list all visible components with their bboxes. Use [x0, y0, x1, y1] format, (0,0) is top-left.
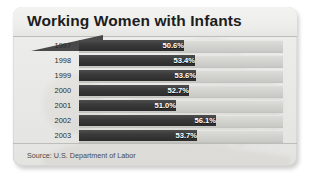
source-note: Source: U.S. Department of Labor: [27, 151, 136, 160]
bar-value-label: 56.1%: [79, 115, 220, 126]
footer-divider: [13, 143, 297, 144]
bar-chart: 1997 50.6% 1998 53.4% 1999 53.6% 2000: [13, 37, 297, 141]
category-label: 1998: [37, 54, 71, 67]
chart-row: 2000 52.7%: [13, 84, 297, 97]
infographic-card: Working Women with Infants 1997 50.6% 19…: [13, 7, 297, 166]
bar-value-label: 50.6%: [79, 40, 188, 51]
chart-row: 1998 53.4%: [13, 54, 297, 67]
bar-value-label: 53.4%: [79, 55, 199, 66]
chart-row: 2003 53.7%: [13, 129, 297, 142]
bar-value-label: 51.0%: [79, 100, 180, 111]
category-label: 2001: [37, 99, 71, 112]
category-label: 1999: [37, 69, 71, 82]
category-label: 2003: [37, 129, 71, 142]
screenshot-root: Working Women with Infants 1997 50.6% 19…: [0, 0, 312, 179]
chart-row: 1997 50.6%: [13, 39, 297, 52]
category-label: 1997: [37, 39, 71, 52]
category-label: 2002: [37, 114, 71, 127]
chart-row: 1999 53.6%: [13, 69, 297, 82]
page-title: Working Women with Infants: [27, 12, 242, 30]
chart-row: 2002 56.1%: [13, 114, 297, 127]
category-label: 2000: [37, 84, 71, 97]
bar-value-label: 52.7%: [79, 85, 193, 96]
bar-value-label: 53.7%: [79, 130, 201, 141]
bar-value-label: 53.6%: [79, 70, 200, 81]
chart-row: 2001 51.0%: [13, 99, 297, 112]
